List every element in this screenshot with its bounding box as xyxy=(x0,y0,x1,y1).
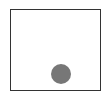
circle-marker xyxy=(51,64,71,84)
